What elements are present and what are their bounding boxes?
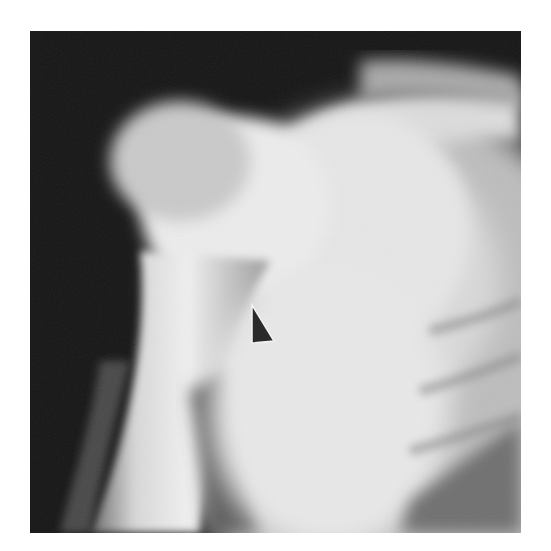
shoulder-radiograph <box>30 31 521 533</box>
xray-image <box>30 31 521 533</box>
arrowhead-marker-icon <box>247 303 277 347</box>
